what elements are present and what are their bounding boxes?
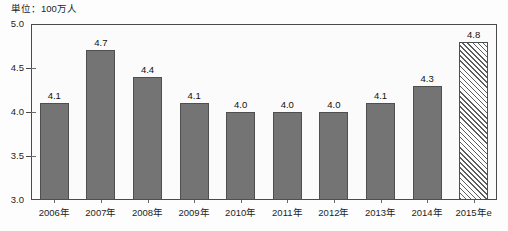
bar-slot: 4.0 [273,24,302,200]
bar-slot: 4.1 [180,24,209,200]
x-axis-tick-label: 2009年 [179,207,210,219]
x-axis-tick-label: 2014年 [412,207,443,219]
y-axis-tick-label: 5.0 [11,18,24,29]
y-axis-inner-tick [31,156,36,157]
x-axis-tick-label: 2008年 [132,207,163,219]
x-axis-tick-mark [54,200,55,203]
x-axis-tick-mark [194,200,195,203]
y-axis-inner-tick [31,112,36,113]
bar-slot: 4.1 [366,24,395,200]
bar-slot: 4.3 [413,24,442,200]
x-axis-tick-label: 2010年 [225,207,256,219]
bar[interactable] [180,103,209,200]
x-axis-tick-label: 2012年 [318,207,349,219]
x-axis-tick-label: 2011年 [272,207,302,219]
x-axis: 2006年2007年2008年2009年2010年2011年2012年2013年… [31,203,497,225]
x-axis-tick-label: 2013年 [365,207,396,219]
y-axis-tick-label: 4.0 [11,106,24,117]
bar-slot: 4.7 [86,24,115,200]
x-axis-tick-mark [427,200,428,203]
x-axis-tick-mark [474,200,475,203]
bar-value-label: 4.0 [234,99,247,110]
bar-value-label: 4.7 [94,37,107,48]
bars-layer: 4.14.74.44.14.04.04.04.14.34.8 [31,24,497,200]
x-axis-tick-mark [381,200,382,203]
x-axis-tick-mark [101,200,102,203]
bar[interactable] [413,86,442,200]
x-axis-tick-mark [148,200,149,203]
bar[interactable] [366,103,395,200]
x-axis-tick-mark [241,200,242,203]
bar-value-label: 4.0 [281,99,294,110]
bar[interactable] [459,42,488,200]
y-axis: 5.04.54.03.53.0 [0,24,31,200]
bar-value-label: 4.8 [467,29,480,40]
bar-slot: 4.4 [133,24,162,200]
bar[interactable] [40,103,69,200]
y-axis-tick-label: 4.5 [11,62,24,73]
bar[interactable] [319,112,348,200]
bar-value-label: 4.1 [374,90,387,101]
bar[interactable] [226,112,255,200]
unit-caption: 単位：100万人 [11,3,77,15]
x-axis-tick-mark [334,200,335,203]
bar[interactable] [86,50,115,200]
bar-chart: 単位：100万人 5.04.54.03.53.0 4.14.74.44.14.0… [0,0,508,231]
bar[interactable] [133,77,162,200]
x-axis-tick-label: 2015年e [455,207,491,219]
y-axis-inner-tick [31,68,36,69]
bar-value-label: 4.1 [48,90,61,101]
bar-value-label: 4.4 [141,64,154,75]
x-axis-tick-label: 2006年 [39,207,70,219]
bar-slot: 4.0 [319,24,348,200]
bar-slot: 4.8 [459,24,488,200]
y-axis-tick-label: 3.0 [11,194,24,205]
bar-value-label: 4.3 [420,73,433,84]
y-axis-tick-label: 3.5 [11,150,24,161]
x-axis-tick-label: 2007年 [85,207,116,219]
bar-value-label: 4.0 [327,99,340,110]
bar-slot: 4.0 [226,24,255,200]
x-axis-tick-mark [287,200,288,203]
bar-value-label: 4.1 [187,90,200,101]
bar[interactable] [273,112,302,200]
bar-slot: 4.1 [40,24,69,200]
